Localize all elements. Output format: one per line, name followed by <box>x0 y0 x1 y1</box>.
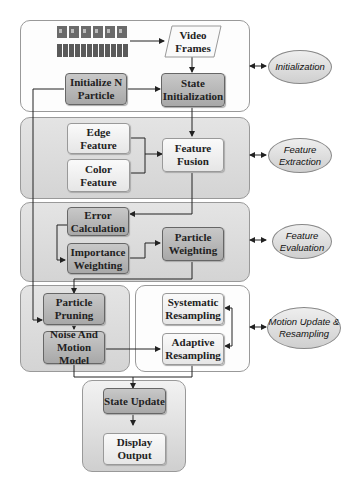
node-initialize-n-particle: Initialize N Particle <box>65 73 127 105</box>
node-color-feature: Color Feature <box>67 159 130 192</box>
node-error-calculation: Error Calculation <box>67 207 129 236</box>
stage-feature-extraction: Feature Extraction <box>268 138 332 173</box>
node-noise-motion-model: Noise And Motion Model <box>43 331 105 364</box>
node-display-output: Display Output <box>103 433 166 465</box>
node-video-frames: Video Frames <box>164 25 222 58</box>
node-systematic-resampling: Systematic Resampling <box>162 293 224 325</box>
node-particle-weighting: Particle Weighting <box>162 227 224 261</box>
node-feature-fusion: Feature Fusion <box>162 138 224 172</box>
stage-feature-evaluation: Feature Evaluation <box>272 224 332 259</box>
node-state-update: State Update <box>103 388 166 414</box>
node-importance-weighting: Importance Weighting <box>67 243 129 274</box>
node-edge-feature: Edge Feature <box>67 123 130 154</box>
node-video-frames-label: Video Frames <box>164 25 222 58</box>
node-state-initialization: State Initialization <box>161 73 225 107</box>
node-particle-pruning: Particle Pruning <box>43 293 105 325</box>
stage-initialization: Initialization <box>268 50 332 84</box>
stage-motion-update-resampling: Motion Update & Resampling <box>267 307 341 349</box>
node-adaptive-resampling: Adaptive Resampling <box>162 333 224 365</box>
